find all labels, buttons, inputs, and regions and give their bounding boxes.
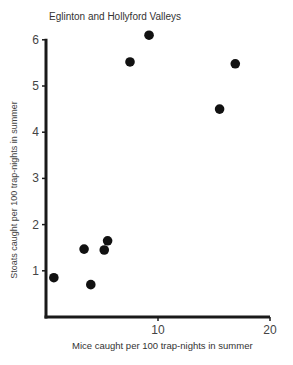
data-points — [49, 30, 240, 289]
scatter-plot: 1234561020 — [0, 0, 293, 365]
data-point — [230, 59, 240, 69]
data-point — [215, 104, 225, 114]
x-tick-label: 10 — [151, 323, 165, 337]
data-point — [86, 280, 96, 290]
data-point — [49, 273, 59, 283]
axes: 1234561020 — [32, 33, 277, 337]
y-tick-label: 3 — [32, 171, 39, 185]
data-point — [125, 57, 135, 67]
data-point — [99, 245, 109, 255]
data-point — [103, 236, 113, 246]
y-tick-label: 2 — [32, 218, 39, 232]
y-tick-label: 6 — [32, 33, 39, 47]
data-point — [144, 30, 154, 40]
y-tick-label: 4 — [32, 125, 39, 139]
y-tick-label: 5 — [32, 79, 39, 93]
x-tick-label: 20 — [263, 323, 277, 337]
data-point — [79, 244, 89, 254]
y-tick-label: 1 — [32, 264, 39, 278]
